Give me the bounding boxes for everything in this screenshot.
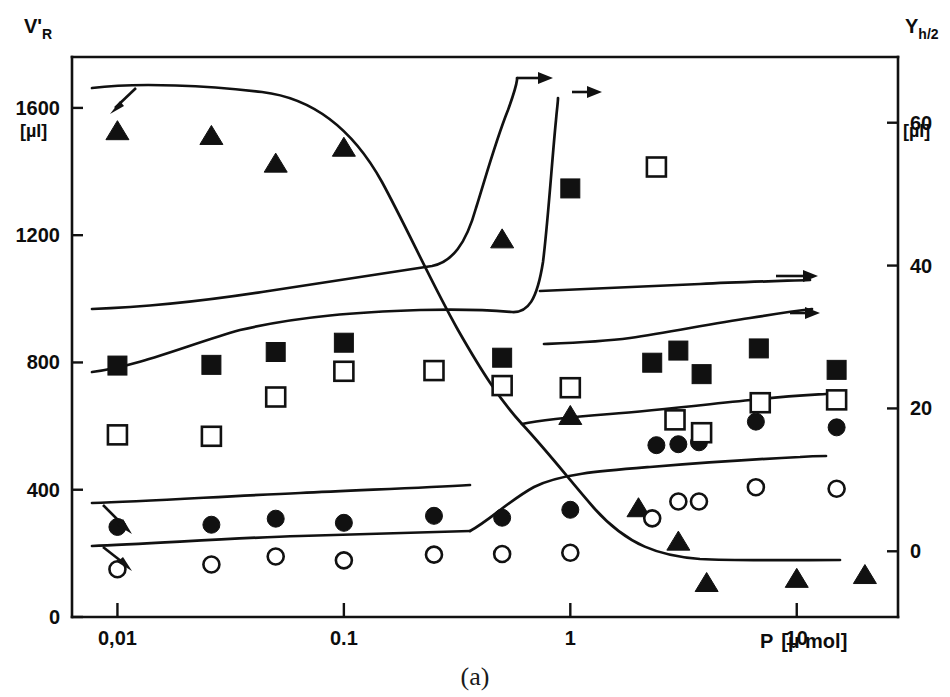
data-point-filled-triangle: [667, 531, 690, 550]
data-point-filled-circle: [828, 419, 845, 436]
figure-container: 160012008004000 6040200 0,010.1110 V'R […: [0, 0, 950, 697]
data-point-open-circle: [829, 481, 845, 497]
right-axis-unit: [µl]: [903, 121, 930, 141]
data-point-filled-triangle: [200, 125, 223, 144]
right-tick-label: 0: [910, 540, 921, 562]
axis-titles: V'R [µl] Yh/2 [µl] P[µ mol]: [20, 15, 939, 652]
data-point-open-square: [424, 361, 443, 380]
x-axis-symbol: P: [760, 630, 773, 652]
data-point-filled-circle: [670, 436, 687, 453]
data-point-filled-triangle: [785, 568, 808, 587]
x-axis-title: P[µ mol]: [760, 630, 847, 652]
arrow-right-filled-square-rising: [517, 72, 553, 84]
data-point-open-circle: [748, 479, 764, 495]
data-point-open-circle: [426, 547, 442, 563]
chart-curves: [92, 78, 840, 560]
data-point-filled-square: [108, 356, 127, 375]
arrow-down-left-triangle-series: [110, 88, 136, 114]
data-point-open-circle: [494, 546, 510, 562]
right-tick-label: 40: [910, 255, 932, 277]
data-point-open-circle: [336, 552, 352, 568]
left-axis-subscript: R: [42, 26, 52, 42]
data-point-open-square: [647, 158, 666, 177]
data-point-filled-square: [561, 179, 580, 198]
left-tick-label: 1200: [16, 224, 61, 246]
data-point-filled-square: [643, 353, 662, 372]
data-point-open-square: [493, 376, 512, 395]
data-point-open-circle: [691, 494, 707, 510]
data-point-filled-triangle: [853, 565, 876, 584]
data-point-open-square: [334, 362, 353, 381]
left-tick-label: 800: [27, 351, 60, 373]
left-tick-label: 400: [27, 479, 60, 501]
data-point-filled-circle: [648, 437, 665, 454]
x-tick-label: 1: [565, 627, 576, 649]
left-tick-label: 1600: [16, 97, 61, 119]
data-point-open-square: [202, 427, 221, 446]
x-tick-label: 0.1: [330, 627, 358, 649]
data-point-open-circle: [203, 557, 219, 573]
data-point-open-circle: [644, 510, 660, 526]
data-point-filled-circle: [425, 507, 442, 524]
data-point-filled-square: [827, 360, 846, 379]
data-point-open-square: [751, 393, 770, 412]
x-tick-label: 0,01: [98, 627, 137, 649]
data-point-filled-square: [493, 348, 512, 367]
data-point-open-square: [692, 423, 711, 442]
curve-open-square-rising: [92, 98, 558, 372]
chart-canvas: 160012008004000 6040200 0,010.1110 V'R […: [0, 0, 950, 697]
axis-frame: [72, 57, 898, 617]
x-axis-unit: [µ mol]: [781, 630, 847, 652]
left-tick-label: 0: [49, 606, 60, 628]
x-axis-ticks: 0,010.1110: [98, 603, 808, 649]
left-axis-symbol: V': [24, 15, 42, 37]
data-point-open-circle: [268, 549, 284, 565]
data-point-open-square: [108, 425, 127, 444]
right-axis-symbol: Y: [905, 15, 919, 37]
data-point-filled-circle: [747, 413, 764, 430]
data-point-filled-triangle: [695, 573, 718, 592]
data-point-open-circle: [562, 545, 578, 561]
data-point-filled-triangle: [106, 121, 129, 140]
data-point-filled-circle: [562, 501, 579, 518]
arrow-right-open-square-rising: [572, 86, 602, 98]
right-axis-ticks: 6040200: [887, 112, 932, 563]
curve-filled-square-right-plateau: [540, 280, 810, 291]
curve-filled-circle-left: [92, 485, 470, 503]
right-tick-label: 20: [910, 397, 932, 419]
figure-caption: (a): [461, 662, 490, 691]
curve-filled-square-rising: [92, 78, 517, 309]
arrow-right-open-square-plateau: [790, 307, 820, 319]
data-point-filled-square: [749, 339, 768, 358]
curve-open-square-right-plateau: [544, 309, 812, 344]
right-axis-subscript: h/2: [918, 26, 938, 42]
data-point-filled-triangle: [491, 229, 514, 248]
data-point-filled-circle: [203, 516, 220, 533]
data-point-filled-square: [692, 365, 711, 384]
data-point-open-square: [266, 388, 285, 407]
data-point-open-square: [561, 378, 580, 397]
data-point-filled-square: [669, 341, 688, 360]
data-point-filled-circle: [267, 510, 284, 527]
left-axis-title: V'R: [24, 15, 52, 42]
data-point-open-square: [666, 410, 685, 429]
curve-open-circle-left: [92, 531, 470, 546]
chart-markers: [106, 121, 876, 592]
right-axis-title: Yh/2: [905, 15, 939, 42]
data-point-open-square: [827, 390, 846, 409]
data-point-filled-triangle: [559, 405, 582, 424]
data-point-filled-square: [266, 343, 285, 362]
left-axis-unit: [µl]: [20, 121, 47, 141]
data-point-filled-square: [202, 355, 221, 374]
data-point-filled-square: [334, 333, 353, 352]
data-point-filled-circle: [335, 514, 352, 531]
data-point-open-circle: [670, 494, 686, 510]
data-point-filled-triangle: [264, 153, 287, 172]
data-point-filled-circle: [494, 509, 511, 526]
